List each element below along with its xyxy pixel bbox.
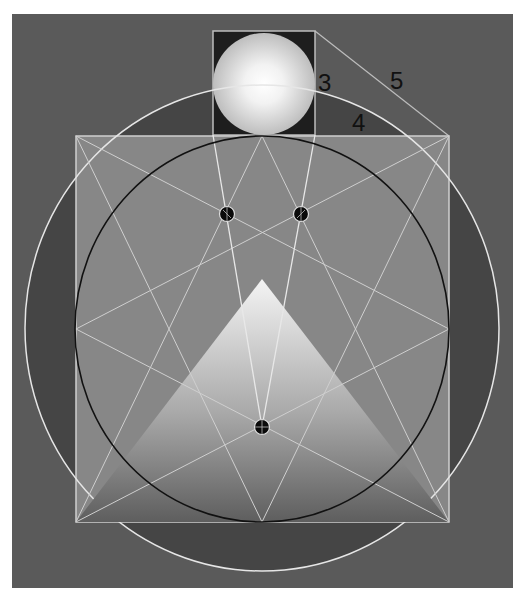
- label-side-4: 4: [352, 109, 365, 136]
- label-side-3: 3: [318, 69, 331, 96]
- sphere: [213, 33, 315, 135]
- mouth-dot: [255, 420, 270, 435]
- right-eye-dot: [294, 207, 309, 222]
- label-hypotenuse-5: 5: [390, 67, 403, 94]
- left-eye-dot: [220, 207, 235, 222]
- sacred-geometry-diagram: 3 4 5: [0, 0, 521, 598]
